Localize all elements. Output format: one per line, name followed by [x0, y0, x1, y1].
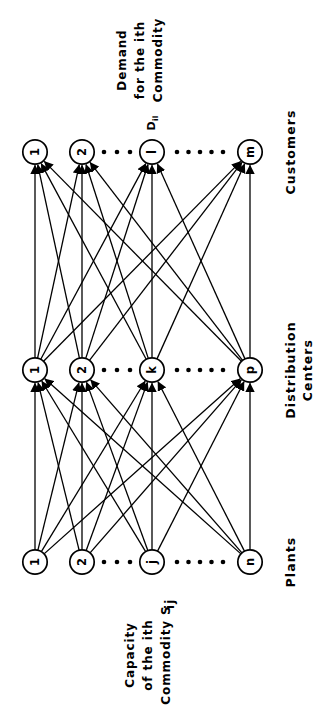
ellipsis-dot-plants: [221, 560, 226, 565]
annotation-demand: for the ith: [133, 21, 147, 99]
row-label-line: Centers: [300, 339, 315, 401]
node-customers-1[interactable]: 1: [23, 140, 47, 164]
network-diagram-svg: 12jn12kp12lm PlantsDistributionCentersDi…: [0, 0, 327, 710]
annotation-line: of the ith: [141, 619, 155, 691]
node-distribution-centers-2[interactable]: 2: [70, 358, 94, 382]
annotation-line: Capacity: [123, 622, 137, 688]
capacity-subscript: ij: [163, 599, 177, 609]
ellipsis-dot-plants: [102, 560, 107, 565]
annotation-demand: Demand: [115, 29, 129, 90]
ellipsis-dot-distribution-centers: [186, 368, 191, 373]
node-customers-2[interactable]: 2: [70, 140, 94, 164]
node-label: j: [145, 560, 159, 565]
ellipsis-dot-distribution-centers: [128, 368, 133, 373]
node-label: 2: [75, 366, 89, 374]
ellipsis-dot-customers: [198, 150, 203, 155]
node-customers-l[interactable]: l: [140, 140, 164, 164]
annotation-line: Commodity S: [159, 605, 173, 704]
node-distribution-centers-p[interactable]: p: [238, 358, 262, 382]
ellipsis-dot-customers: [128, 150, 133, 155]
ellipsis-dot-customers: [102, 150, 107, 155]
annotation-line: Commodity: [151, 18, 165, 103]
ellipsis-dot-distribution-centers: [198, 368, 203, 373]
ellipsis-dot-plants: [209, 560, 214, 565]
ellipsis-dot-distribution-centers: [221, 368, 226, 373]
ellipsis-dot-plants: [198, 560, 203, 565]
demand-subscript: il: [151, 116, 160, 121]
node-distribution-centers-k[interactable]: k: [140, 358, 164, 382]
annotation-demand: Commodity: [151, 18, 165, 103]
row-label-customers: Customers: [283, 109, 298, 194]
ellipsis-dot-distribution-centers: [209, 368, 214, 373]
ellipsis-dot-customers: [209, 150, 214, 155]
node-plants-j[interactable]: j: [140, 550, 164, 574]
node-label: l: [145, 150, 159, 154]
annotation-line: Demand: [115, 29, 129, 90]
annotation-capacity: Commodity Sij: [159, 599, 177, 705]
node-label: m: [243, 146, 257, 158]
ellipsis-dot-plants: [128, 560, 133, 565]
row-label-plants: Plants: [283, 537, 298, 588]
annotation-capacity: Capacity: [123, 622, 137, 688]
node-plants-1[interactable]: 1: [23, 550, 47, 574]
node-plants-n[interactable]: n: [238, 550, 262, 574]
diagram-canvas: 12jn12kp12lm PlantsDistributionCentersDi…: [0, 0, 327, 710]
annotation-capacity: of the ith: [141, 619, 155, 691]
edges-group: [35, 161, 250, 553]
node-label: k: [145, 366, 159, 374]
demand-symbol: D: [146, 121, 159, 130]
ellipsis-dot-plants: [175, 560, 180, 565]
node-plants-2[interactable]: 2: [70, 550, 94, 574]
node-customers-m[interactable]: m: [238, 140, 262, 164]
row-label-line: Customers: [283, 109, 298, 194]
node-distribution-centers-1[interactable]: 1: [23, 358, 47, 382]
ellipsis-dot-customers: [221, 150, 226, 155]
demand-symbol-label: Dil: [146, 116, 161, 131]
ellipsis-dot-customers: [115, 150, 120, 155]
ellipsis-dot-plants: [186, 560, 191, 565]
node-label: 1: [28, 558, 42, 566]
annotation-line: for the ith: [133, 21, 147, 99]
ellipsis-dot-distribution-centers: [115, 368, 120, 373]
ellipsis-dot-distribution-centers: [175, 368, 180, 373]
ellipsis-dot-customers: [175, 150, 180, 155]
row-label-distribution-centers: Centers: [300, 339, 315, 401]
node-label: p: [243, 366, 257, 374]
ellipsis-dot-customers: [186, 150, 191, 155]
node-label: 1: [28, 366, 42, 374]
node-label: 2: [75, 558, 89, 566]
ellipsis-dot-distribution-centers: [102, 368, 107, 373]
node-label: 1: [28, 148, 42, 156]
row-label-distribution-centers: Distribution: [283, 321, 298, 418]
row-label-line: Plants: [283, 537, 298, 588]
node-label: 2: [75, 148, 89, 156]
node-label: n: [243, 558, 257, 566]
row-label-line: Distribution: [283, 321, 298, 418]
ellipsis-dot-plants: [115, 560, 120, 565]
